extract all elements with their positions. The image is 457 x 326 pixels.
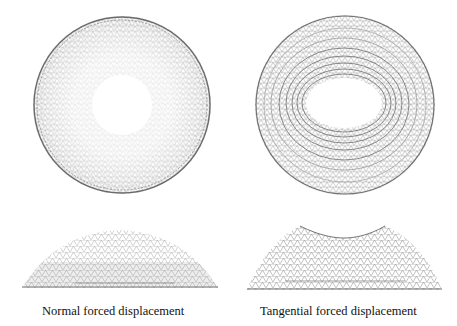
tangential-side-view-mesh-icon xyxy=(230,210,457,295)
tangential-top-view-mesh-icon xyxy=(230,0,457,205)
normal-caption: Normal forced displacement xyxy=(42,304,184,319)
tangential-top-view xyxy=(230,0,457,205)
normal-side-view-mesh-icon xyxy=(0,215,230,295)
tangential-side-view xyxy=(230,210,457,295)
normal-top-view-mesh-icon xyxy=(0,0,230,205)
normal-side-view xyxy=(0,215,230,295)
tangential-caption: Tangential forced displacement xyxy=(260,304,417,319)
normal-top-view xyxy=(0,0,230,205)
